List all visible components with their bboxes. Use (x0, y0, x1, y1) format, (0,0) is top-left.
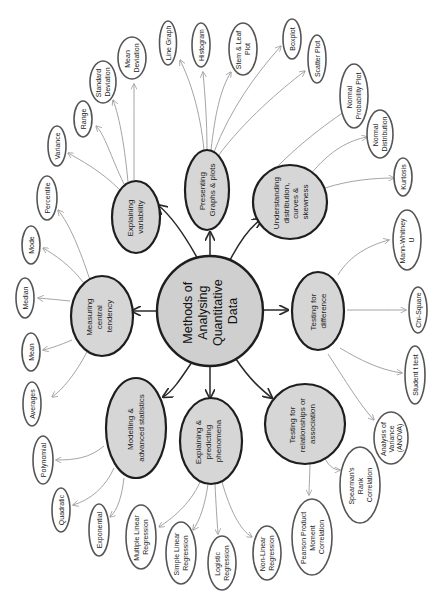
svg-text:Variance: Variance (54, 132, 61, 159)
leaf-mean-deviation: Mean Deviation (118, 37, 146, 79)
svg-text:Averages: Averages (29, 389, 37, 419)
leaf-multiple-linear-regression: Multiple Linear Regression (126, 505, 156, 569)
svg-text:Presenting Graphs & plot: Presenting Graphs & plots (198, 164, 217, 217)
svg-text:Scatter Plot: Scatter Plot (314, 41, 321, 77)
svg-text:Explaining & predicting: Explaining & predicting phenomena (194, 418, 223, 465)
svg-text:Boxplot: Boxplot (289, 27, 297, 50)
leaf-exponential: Exponential (89, 504, 109, 556)
node-explaining-predicting: Explaining & predicting phenomena (180, 398, 242, 484)
leaf-scatter-plot: Scatter Plot (308, 35, 326, 83)
leaf-simple-linear-regression: Simple Linear Regression (166, 522, 196, 584)
leaf-range: Range (74, 101, 92, 137)
svg-text:Exponential: Exponential (96, 511, 104, 548)
leaf-mann-whitney-u: Mann-Whitney U (393, 210, 421, 270)
mind-map-diagram: Line Graph Histogram Stem & Leaf Plot Bo… (0, 0, 446, 596)
leaf-chi-square: Chi-Square (409, 287, 427, 333)
leaf-spearmans-rank-correlation: Spearman's Rank Correlation (340, 447, 380, 523)
leaf-variance: Variance (48, 126, 66, 166)
svg-text:Histogram: Histogram (198, 29, 206, 61)
leaf-mean: Mean (22, 333, 40, 371)
node-modelling-advanced-statistics: Modelling & advanced statistics (106, 378, 166, 478)
leaf-normal-probability-plot: Normal Probability Plot (340, 64, 368, 128)
leaf-polynomial: Polynomial (33, 436, 53, 484)
node-center-methods-analysing-quantitative-data: Methods of Analysing Quantitative Data (157, 256, 263, 366)
svg-text:Student t test: Student t test (412, 354, 419, 395)
leaf-line-graph: Line Graph (160, 21, 177, 65)
svg-text:Range: Range (80, 109, 88, 130)
svg-text:Logistic Regression: Logistic Regression (214, 545, 231, 581)
leaf-boxplot: Boxplot (283, 19, 301, 59)
svg-text:Percentile: Percentile (44, 182, 51, 213)
svg-text:Multiple Linear Regressi: Multiple Linear Regression (133, 513, 150, 560)
svg-text:Polynomial: Polynomial (40, 442, 48, 477)
node-presenting-graphs-plots: Presenting Graphs & plots (185, 150, 229, 230)
svg-text:Analysis of Variance: Analysis of Variance (ANOVA) (380, 420, 404, 456)
leaf-logistic-regression: Logistic Regression (208, 536, 236, 590)
svg-text:Testing for difference: Testing for difference (309, 291, 328, 330)
svg-text:Non-Linear Regression: Non-Linear Regression (259, 535, 276, 572)
leaf-kurtosis: Kurtosis (394, 158, 412, 196)
node-testing-for-relationships: Testing for relationships or association (265, 384, 345, 464)
leaf-stem-leaf-plot: Stem & Leaf Plot (229, 23, 257, 75)
leaf-non-linear-regression: Non-Linear Regression (253, 526, 281, 580)
node-measuring-central-tendency: Measuring central tendency (71, 276, 133, 356)
svg-text:Simple Linear Regression: Simple Linear Regression (173, 531, 190, 576)
svg-text:Explaining variability: Explaining variability (126, 197, 145, 236)
leaf-percentile: Percentile (37, 176, 57, 220)
node-explaining-variability: Explaining variability (112, 181, 160, 253)
svg-text:Line Graph: Line Graph (165, 26, 173, 61)
svg-text:Quadratic: Quadratic (58, 494, 66, 525)
leaf-quadratic: Quadratic (52, 488, 70, 532)
leaf-histogram: Histogram (192, 23, 210, 67)
leaf-normal-distribution: Normal Distribution (367, 110, 393, 158)
node-understanding-distribution: Understanding distribution, curves & ske… (253, 165, 327, 239)
leaf-anova: Analysis of Variance (ANOVA) (374, 412, 408, 464)
leaf-median: Median (16, 278, 34, 318)
svg-text:Mean: Mean (28, 343, 35, 361)
svg-text:Kurtosis: Kurtosis (400, 164, 407, 190)
leaf-student-t-test: Student t test (405, 346, 425, 404)
leaf-averages: Averages (23, 382, 41, 426)
leaf-standard-deviation: Standard Deviation (90, 61, 116, 103)
svg-text:Median: Median (22, 286, 29, 309)
leaf-mode: Mode (22, 226, 40, 264)
svg-text:Mode: Mode (28, 236, 35, 254)
node-testing-for-difference: Testing for difference (292, 272, 344, 350)
svg-text:Chi-Square: Chi-Square (415, 292, 423, 328)
leaf-pearson-product-moment-correlation: Pearson Product Moment Correlation (292, 499, 332, 575)
